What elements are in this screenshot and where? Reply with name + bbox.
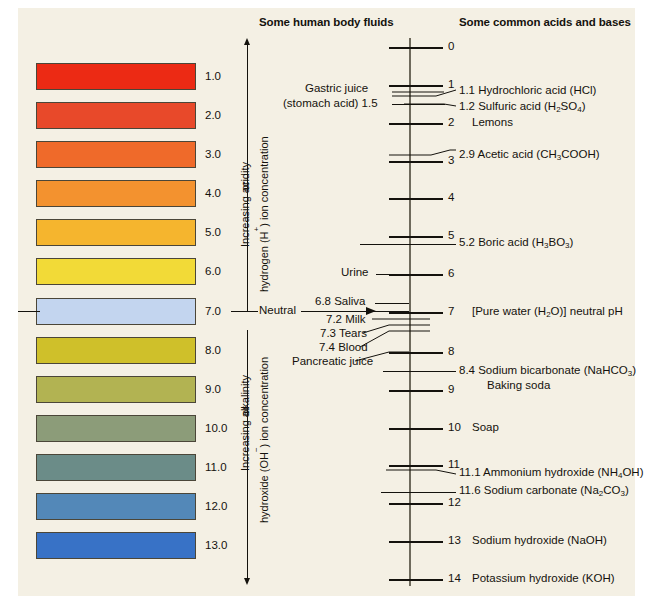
label-neutral: Neutral [259, 304, 296, 316]
axis-tick [389, 47, 443, 49]
label-gastric-juice-line2: (stomach acid) 1.5 [283, 97, 378, 109]
axis-tick-label: 0 [448, 40, 454, 52]
leader-urine [376, 274, 409, 275]
alkalinity-arrow-head [244, 578, 250, 585]
label-boric-acid: 5.2 Boric acid (H3BO3) [459, 236, 573, 248]
acetic-acid-text: 2.9 Acetic acid (CH [459, 148, 557, 160]
axis-tick [389, 579, 443, 581]
label-acidity-or: or [239, 181, 251, 191]
axis-tick [389, 236, 443, 238]
axis-tick [389, 312, 443, 314]
ph-scale-diagram: Some human body fluids Some common acids… [0, 0, 653, 607]
sulfuric-acid-sub4: 4 [577, 105, 581, 114]
pure-water-sub2: 2 [546, 310, 550, 319]
boric-acid-sub3: 3 [544, 241, 548, 250]
ph-swatch [36, 454, 196, 481]
label-acetic-acid: 2.9 Acetic acid (CH3COOH) [459, 148, 600, 160]
ammonium-text: 11.1 Ammonium hydroxide (NH [459, 466, 618, 478]
ph-swatch [36, 337, 196, 364]
label-increasing-acidity: Increasing acidity [239, 162, 251, 247]
label-baking-soda: Baking soda [487, 379, 550, 391]
boric-acid-text: 5.2 Boric acid (H [459, 236, 544, 248]
carbonate-co: CO [603, 484, 620, 496]
ph-swatch-label: 11.0 [205, 461, 227, 473]
ph-swatch-label: 2.0 [205, 109, 221, 121]
label-sodium-carbonate: 11.6 Sodium carbonate (Na2CO3) [459, 484, 629, 496]
axis-tick-label: 4 [448, 191, 454, 203]
axis-tick-label: 3 [448, 154, 454, 166]
label-milk: 7.2 Milk [326, 313, 366, 325]
axis-tick [389, 428, 443, 430]
axis-tick-label: 6 [448, 267, 454, 279]
ph-swatch-label: 9.0 [205, 383, 221, 395]
leader-sodium-bicarbonate [383, 371, 456, 372]
leader-boric-acid [360, 244, 456, 245]
label-sodium-bicarbonate: 8.4 Sodium bicarbonate (NaHCO3) [459, 364, 636, 376]
neutral-connector-swatch [231, 311, 258, 312]
label-saliva: 6.8 Saliva [315, 295, 366, 307]
boric-acid-close: ) [570, 236, 574, 248]
axis-tick-label: 12 [448, 496, 461, 508]
label-ammonium-hydroxide: 11.1 Ammonium hydroxide (NH4OH) [459, 466, 643, 478]
ph-swatch-label: 4.0 [205, 187, 221, 199]
label-alkalinity-or: or [239, 406, 251, 416]
label-hydrochloric-acid: 1.1 Hydrochloric acid (HCl) [459, 84, 596, 96]
neutral-connector-axis [301, 311, 409, 312]
acetic-acid-sub3: 3 [557, 153, 561, 162]
label-hydroxide-ion-concentration: hydroxide (OH−) ion concentration [256, 357, 270, 523]
axis-tick [389, 352, 443, 354]
ph-swatch-label: 8.0 [205, 344, 221, 356]
axis-tick [389, 541, 443, 543]
ph-swatch-label: 12.0 [205, 500, 227, 512]
axis-tick-label: 9 [448, 383, 454, 395]
axis-tick-label: 13 [448, 534, 461, 546]
ph-swatch-label: 3.0 [205, 148, 221, 160]
bicarbonate-close: ) [632, 364, 636, 376]
ammonium-sub4: 4 [618, 471, 622, 480]
ph-swatch [36, 180, 196, 207]
sulfuric-acid-so: SO [561, 100, 578, 112]
leader-sodium-carbonate [381, 492, 456, 493]
label-increasing-alkalinity: Increasing alkalinity [239, 375, 251, 471]
sulfuric-acid-text: 1.2 Sulfuric acid (H [459, 100, 556, 112]
label-soap: Soap [472, 421, 499, 433]
label-blood: 7.4 Blood [319, 341, 368, 353]
carbonate-sub2: 2 [599, 489, 603, 498]
sulfuric-acid-close: ) [582, 100, 586, 112]
ph-swatch-label: 10.0 [205, 422, 227, 434]
heading-acids-bases: Some common acids and bases [459, 16, 631, 28]
label-hydrogen-ion-concentration: hydrogen (H+) ion concentration [256, 136, 270, 292]
axis-tick [389, 85, 443, 87]
ph-swatch-label: 13.0 [205, 539, 227, 551]
sulfuric-acid-sub2: 2 [556, 105, 560, 114]
axis-tick-label: 2 [448, 116, 454, 128]
ph-swatch [36, 415, 196, 442]
axis-tick [389, 465, 443, 467]
label-urine: Urine [341, 266, 368, 278]
heading-body-fluids: Some human body fluids [259, 16, 394, 28]
ph-swatch [36, 141, 196, 168]
ph-swatch [36, 258, 196, 285]
ph-swatch-label: 6.0 [205, 265, 221, 277]
boric-acid-bo: BO [548, 236, 565, 248]
carbonate-text: 11.6 Sodium carbonate (Na [459, 484, 599, 496]
ph-swatch-label: 7.0 [205, 305, 221, 317]
ph-swatch-label: 5.0 [205, 226, 221, 238]
label-gastric-juice-line1: Gastric juice [305, 82, 368, 94]
axis-tick-label: 8 [448, 345, 454, 357]
leader-gastric-juice [392, 104, 445, 105]
bicarbonate-text: 8.4 Sodium bicarbonate (NaHCO [459, 364, 628, 376]
label-tears: 7.3 Tears [320, 327, 367, 339]
label-lemons: Lemons [472, 116, 513, 128]
ph-swatch-label: 1.0 [205, 70, 221, 82]
ph-swatch [36, 63, 196, 90]
axis-tick [389, 198, 443, 200]
pure-water-text: [Pure water (H [472, 305, 546, 317]
ph-swatch [36, 493, 196, 520]
ph-swatch-neutral [36, 298, 196, 325]
pure-water-close: O)] neutral pH [551, 305, 623, 317]
boric-acid-sub3b: 3 [565, 241, 569, 250]
ph-swatch [36, 102, 196, 129]
acetic-acid-close: COOH) [561, 148, 599, 160]
axis-tick-label: 10 [448, 421, 461, 433]
